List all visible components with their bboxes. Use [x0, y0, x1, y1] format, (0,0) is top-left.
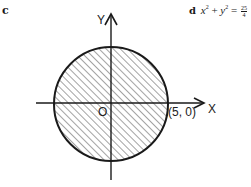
circle-diagram: X Y O (5, 0): [0, 0, 251, 187]
y-axis-label: Y: [97, 13, 105, 27]
origin-label: O: [98, 105, 107, 119]
point-label: (5, 0): [168, 105, 196, 119]
x-axis-label: X: [208, 102, 216, 116]
